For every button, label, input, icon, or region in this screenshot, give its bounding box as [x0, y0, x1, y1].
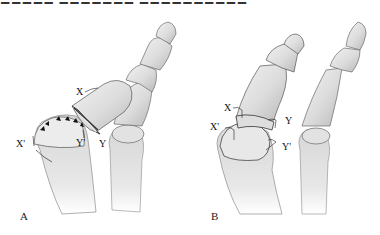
panel-a: X X' Y' Y A — [16, 22, 176, 222]
panel-b: X X' Y Y' B — [210, 22, 366, 222]
marker-y-prime-b: Y' — [282, 141, 291, 152]
marker-x-b: X — [224, 102, 232, 113]
marker-y-prime-a: Y' — [76, 137, 85, 148]
marker-y-a: Y — [99, 138, 106, 149]
panel-label-b: B — [211, 210, 218, 222]
metatarsal-head-b — [217, 122, 282, 214]
marker-x-a: X — [76, 86, 84, 97]
anatomical-figure: X X' Y' Y A — [0, 0, 380, 235]
panel-label-a: A — [20, 210, 28, 222]
second-toe-b — [299, 22, 366, 214]
marker-x-prime-a: X' — [16, 138, 25, 149]
second-toe-a — [109, 22, 176, 212]
marker-x-prime-b: X' — [210, 121, 219, 132]
marker-y-b: Y — [285, 115, 292, 126]
proximal-phalanx-b — [236, 34, 304, 130]
